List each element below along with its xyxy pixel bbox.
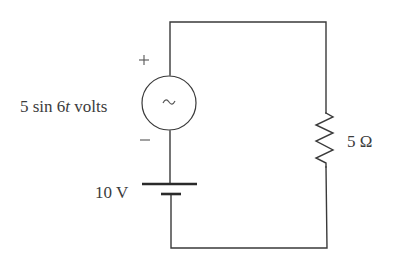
- ac-source-label: 5 sin 6t volts: [20, 97, 107, 116]
- circuit-diagram: 5 sin 6t volts 10 V 5 Ω: [0, 0, 398, 255]
- resistor-zigzag-icon: [316, 113, 333, 167]
- battery-label: 10 V: [95, 183, 129, 202]
- bottom-wire: [171, 167, 327, 248]
- resistor-label: 5 Ω: [347, 132, 372, 151]
- plus-sign-icon: [139, 55, 149, 65]
